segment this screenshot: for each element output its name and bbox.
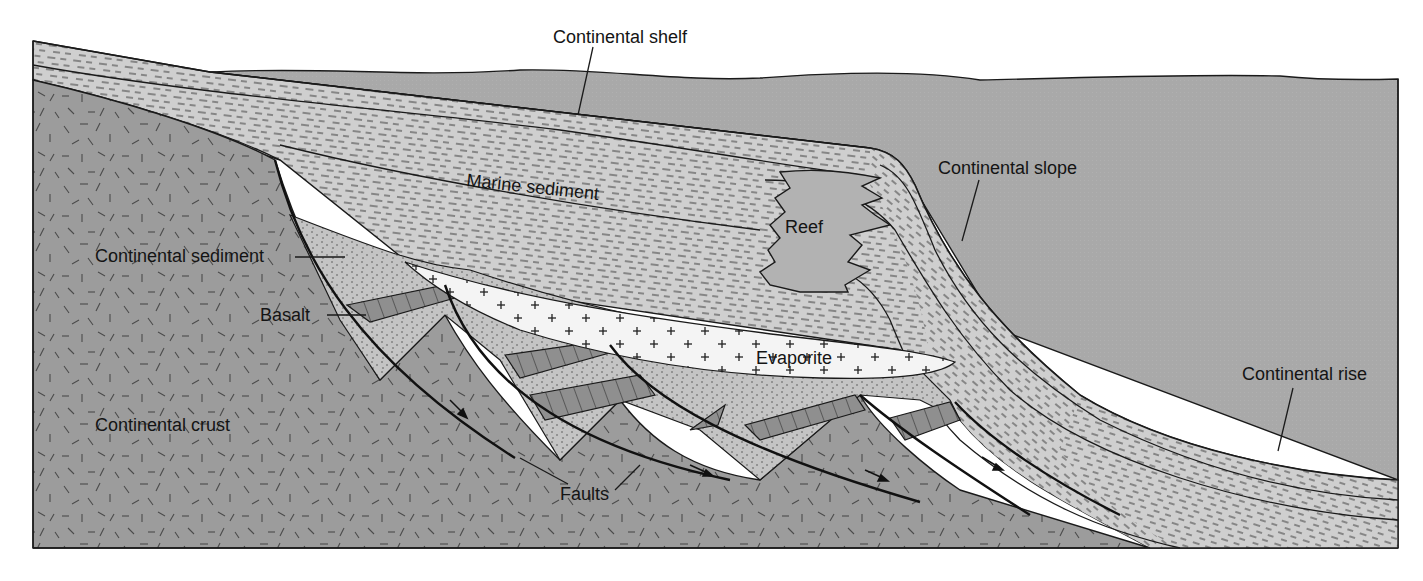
label-evaporite: Evaporite — [756, 348, 832, 368]
label-continental-sediment: Continental sediment — [95, 246, 264, 266]
label-continental-shelf: Continental shelf — [553, 27, 688, 47]
label-faults: Faults — [560, 484, 609, 504]
label-continental-slope: Continental slope — [938, 158, 1077, 178]
label-reef: Reef — [785, 217, 824, 237]
label-continental-rise: Continental rise — [1242, 364, 1367, 384]
label-basalt: Basalt — [260, 305, 310, 325]
label-continental-crust: Continental crust — [95, 415, 230, 435]
passive-margin-cross-section: Continental shelf Continental slope Cont… — [0, 0, 1423, 581]
